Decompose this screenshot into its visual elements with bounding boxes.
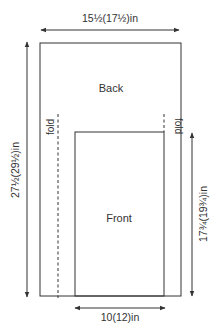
back-label: Back	[99, 82, 124, 94]
fold-label-left: fold	[45, 119, 56, 135]
height-left-label: 27½(29½)in	[9, 142, 21, 198]
height-right-label: 17¾(19¾)in	[197, 186, 209, 242]
width-bottom-label: 10(12)in	[101, 311, 140, 323]
front-label: Front	[106, 212, 132, 224]
back-piece-outline	[40, 43, 181, 296]
width-top-label: 15½(17½)in	[82, 12, 138, 24]
garment-schematic: 15½(17½)in Back Front 10(12)in 27½(29½)i…	[0, 0, 216, 326]
fold-label-right: fold	[173, 118, 184, 134]
